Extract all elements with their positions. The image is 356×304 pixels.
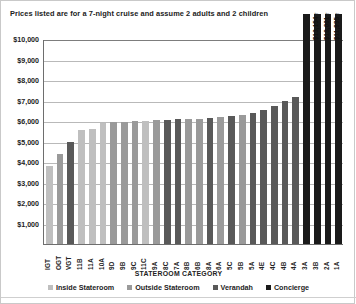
x-axis-tick-label: 9D	[108, 262, 115, 270]
legend-swatch-icon	[48, 285, 53, 290]
chart-legend: Inside StateroomOutside StateroomVeranda…	[1, 283, 356, 292]
bar	[335, 14, 342, 244]
x-axis-tick-label: 1A	[333, 262, 340, 270]
x-axis-tick-label: 3B	[312, 262, 319, 270]
x-axis-tick-label: 3A	[301, 262, 308, 270]
bar	[250, 113, 257, 244]
x-axis-tick-label: 9B	[119, 262, 126, 270]
x-axis-tick-label: 8A	[205, 262, 212, 270]
x-axis-tick-label: 6B	[194, 262, 201, 270]
legend-item-label: Inside Stateroom	[56, 283, 114, 292]
x-axis-tick-label: 4C	[269, 262, 276, 270]
legend-divider	[1, 297, 356, 298]
legend-item[interactable]: Outside Stateroom	[127, 283, 199, 292]
bar	[325, 14, 332, 244]
bar	[314, 14, 321, 244]
legend-item[interactable]: Concierge	[266, 283, 309, 292]
y-axis-tick-label: $8,000	[3, 77, 39, 85]
bar	[89, 129, 96, 244]
x-axis-title: STATEROOM CATEGORY	[1, 270, 356, 277]
bar	[110, 122, 117, 244]
x-axis-tick-label: OGT	[55, 256, 62, 270]
legend-swatch-icon	[213, 285, 218, 290]
x-axis-tick-label: 5B	[237, 262, 244, 270]
y-axis-tick-label: $9,000	[3, 57, 39, 65]
bar-series	[44, 40, 343, 244]
x-axis-tick-label: 11A	[87, 258, 94, 270]
bar	[164, 120, 171, 244]
x-axis-tick-label: 4B	[280, 262, 287, 270]
bar	[142, 121, 149, 244]
x-axis-tick-label: 2A	[323, 262, 330, 270]
overflow-value-label: $18,001 ↑	[323, 11, 330, 40]
bar	[46, 166, 53, 244]
bar	[67, 142, 74, 245]
x-axis-tick-label: 8B	[183, 262, 190, 270]
bar	[207, 118, 214, 244]
legend-item[interactable]: Verandah	[213, 283, 253, 292]
bar	[153, 120, 160, 244]
legend-item-label: Outside Stateroom	[135, 283, 199, 292]
bar	[303, 14, 310, 244]
x-axis-tick-label: 8C	[162, 262, 169, 270]
x-axis-tick-label: 11C	[140, 258, 147, 270]
bar	[271, 106, 278, 244]
bar	[239, 115, 246, 244]
bar	[228, 116, 235, 244]
bar	[185, 119, 192, 244]
x-axis-tick-label: IGT	[44, 259, 51, 270]
x-axis-tick-label: 9C	[130, 262, 137, 270]
bar	[175, 119, 182, 244]
bar	[78, 130, 85, 244]
overflow-value-label: $13,154 ↑	[312, 11, 319, 40]
y-axis-tick-label: $7,000	[3, 98, 39, 106]
overflow-annotations: $13,154 ↑$18,001 ↑$11,995 ↑	[1, 1, 356, 41]
legend-item-label: Concierge	[274, 283, 309, 292]
bar	[260, 110, 267, 244]
legend-swatch-icon	[266, 285, 271, 290]
y-axis-tick-label: $5,000	[3, 139, 39, 147]
y-axis-tick-label: $2,000	[3, 200, 39, 208]
overflow-value-label: $11,995 ↑	[333, 12, 340, 40]
x-axis-tick-label: 5A	[248, 262, 255, 270]
bar	[217, 117, 224, 244]
legend-item-label: Verandah	[221, 283, 253, 292]
bar	[57, 154, 64, 244]
x-axis-tick-label: 7A	[173, 262, 180, 270]
y-axis-tick-label: $4,000	[3, 159, 39, 167]
plot-area	[43, 40, 343, 245]
bar	[282, 101, 289, 245]
bar	[100, 123, 107, 244]
x-axis-tick-label: 6A	[215, 262, 222, 270]
x-axis-tick-label: 4A	[290, 262, 297, 270]
x-axis-tick-label: 11B	[76, 258, 83, 270]
y-axis-tick-label: $3,000	[3, 180, 39, 188]
legend-item[interactable]: Inside Stateroom	[48, 283, 114, 292]
bar	[121, 122, 128, 244]
bar	[292, 97, 299, 244]
y-axis-tick-label: $1,000	[3, 221, 39, 229]
x-axis-tick-label: 10A	[98, 258, 105, 270]
bar	[132, 121, 139, 244]
x-axis-tick-label: 9A	[151, 262, 158, 270]
y-axis-tick-label: $6,000	[3, 118, 39, 126]
x-axis-tick-label: 5C	[226, 262, 233, 270]
x-axis-tick-label: VGT	[65, 257, 72, 270]
legend-swatch-icon	[127, 285, 132, 290]
x-axis-tick-labels: IGTOGTVGT11B11A10A9D9B9C11C9A8C7A8B6B8A6…	[43, 247, 343, 271]
x-axis-tick-label: 4E	[258, 262, 265, 270]
bar	[196, 119, 203, 244]
